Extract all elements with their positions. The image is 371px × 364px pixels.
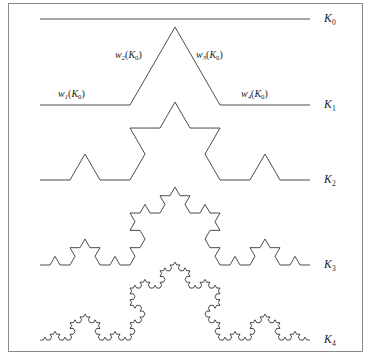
stage-label-base: K bbox=[324, 12, 332, 24]
stage-label-k3: K3 bbox=[324, 259, 335, 271]
stage-label-base: K bbox=[324, 173, 332, 185]
koch-figure: K0K1K2K3K4 w1(K0)w2(K0)w3(K0)w4(K0) bbox=[0, 0, 371, 364]
map-label-close-paren: ) bbox=[220, 49, 223, 60]
koch-curve-k2 bbox=[40, 102, 310, 180]
stage-label-k4: K4 bbox=[324, 334, 335, 346]
stage-label-base: K bbox=[324, 258, 332, 270]
stage-label-subscript: 4 bbox=[332, 339, 336, 348]
map-label-w-subscript: 4 bbox=[248, 93, 251, 100]
map-label-w: w bbox=[196, 49, 203, 60]
koch-curve-k4 bbox=[40, 262, 310, 340]
map-label-w3: w3(K0) bbox=[196, 50, 223, 60]
map-label-k-subscript: 0 bbox=[78, 93, 81, 100]
map-label-w4: w4(K0) bbox=[241, 89, 268, 99]
map-label-close-paren: ) bbox=[265, 88, 268, 99]
map-label-close-paren: ) bbox=[82, 88, 85, 99]
stage-label-base: K bbox=[324, 333, 332, 345]
stage-label-subscript: 1 bbox=[332, 104, 336, 113]
map-label-w-subscript: 3 bbox=[203, 54, 206, 61]
stage-label-subscript: 3 bbox=[332, 264, 336, 273]
map-label-k-subscript: 0 bbox=[216, 54, 219, 61]
map-label-k-subscript: 0 bbox=[261, 93, 264, 100]
map-label-w1: w1(K0) bbox=[58, 89, 85, 99]
stage-label-subscript: 0 bbox=[332, 18, 336, 27]
stage-label-subscript: 2 bbox=[332, 179, 336, 188]
map-label-w-subscript: 1 bbox=[65, 93, 68, 100]
map-label-k-subscript: 0 bbox=[135, 54, 138, 61]
stage-label-k2: K2 bbox=[324, 174, 335, 186]
map-label-w: w bbox=[115, 49, 122, 60]
map-label-w2: w2(K0) bbox=[115, 50, 142, 60]
koch-curves-plot bbox=[0, 0, 371, 364]
map-label-w-subscript: 2 bbox=[122, 54, 125, 61]
map-label-w: w bbox=[58, 88, 65, 99]
stage-label-k0: K0 bbox=[324, 13, 335, 25]
stage-label-k1: K1 bbox=[324, 99, 335, 111]
map-label-close-paren: ) bbox=[139, 49, 142, 60]
stage-label-base: K bbox=[324, 98, 332, 110]
koch-curve-k3 bbox=[40, 187, 310, 265]
map-label-w: w bbox=[241, 88, 248, 99]
